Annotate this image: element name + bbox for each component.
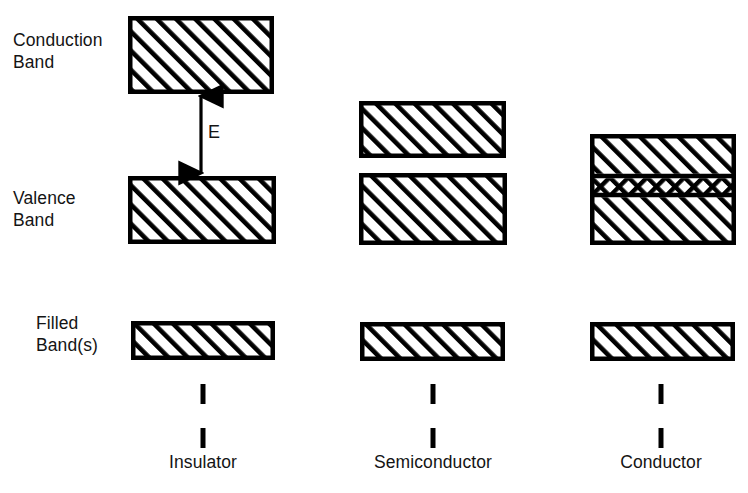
row-label-valence-band: Valence Band xyxy=(13,188,76,231)
semiconductor-valence-band-fill xyxy=(361,175,505,243)
semiconductor-conduction-band xyxy=(361,103,504,156)
leader-lines-layer xyxy=(203,384,661,448)
conductor-overlap-band xyxy=(592,178,734,195)
semiconductor-conduction-band-fill xyxy=(361,103,504,156)
insulator-conduction-band xyxy=(130,18,272,92)
row-label-filled-bands: Filled Band(s) xyxy=(36,313,98,356)
insulator-filled-band xyxy=(133,323,273,358)
column-label-semiconductor: Semiconductor xyxy=(374,452,492,472)
band-diagram-canvas xyxy=(0,0,748,493)
conductor-filled-band xyxy=(592,324,733,359)
semiconductor-valence-band xyxy=(361,175,505,243)
band-diagram: Conduction BandValence BandFilled Band(s… xyxy=(0,0,748,493)
band-boxes-layer xyxy=(130,18,736,359)
insulator-valence-band xyxy=(130,178,274,242)
conductor-overlapping-bands xyxy=(590,136,736,245)
semiconductor-filled-band xyxy=(362,324,503,359)
conductor-upper-band xyxy=(592,136,734,174)
column-label-conductor: Conductor xyxy=(620,452,702,472)
insulator-filled-band-fill xyxy=(133,323,273,358)
row-label-conduction-band: Conduction Band xyxy=(13,30,103,73)
semiconductor-filled-band-fill xyxy=(362,324,503,359)
energy-gap-label: E xyxy=(208,122,220,143)
conductor-lower-band xyxy=(592,197,734,245)
insulator-valence-band-fill xyxy=(130,178,274,242)
conductor-filled-band-fill xyxy=(592,324,733,359)
column-label-insulator: Insulator xyxy=(169,452,237,472)
insulator-conduction-band-fill xyxy=(130,18,272,92)
